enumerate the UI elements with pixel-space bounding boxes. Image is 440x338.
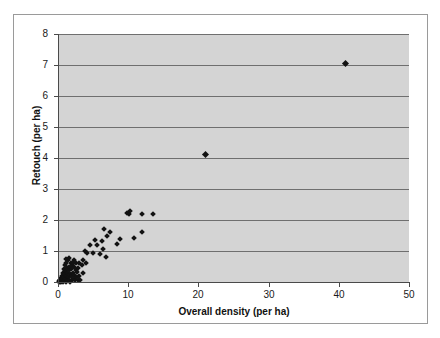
chart-figure: 012345678 01020304050 Overall density (p…: [13, 14, 428, 324]
y-tick-mark-8: [54, 34, 58, 35]
y-tick-mark-4: [54, 158, 58, 159]
y-tick-mark-6: [54, 96, 58, 97]
y-tick-label-1: 1: [24, 246, 48, 256]
y-tick-label-8: 8: [24, 29, 48, 39]
y-axis-title: Retouch (per ha): [31, 66, 42, 226]
y-tick-label-0: 0: [24, 277, 48, 287]
x-tick-label-40: 40: [324, 290, 354, 300]
gridline-y-8: [58, 34, 409, 35]
y-tick-mark-3: [54, 189, 58, 190]
gridline-y-7: [58, 65, 409, 66]
x-tick-mark-0: [58, 283, 59, 287]
x-tick-mark-10: [128, 283, 129, 287]
x-tick-mark-40: [339, 283, 340, 287]
gridline-y-6: [58, 96, 409, 97]
gridline-y-5: [58, 127, 409, 128]
plot-area: [58, 34, 409, 282]
gridline-y-2: [58, 220, 409, 221]
x-axis-line: [58, 282, 410, 283]
y-tick-mark-5: [54, 127, 58, 128]
y-axis-line: [58, 34, 59, 283]
gridline-y-3: [58, 189, 409, 190]
x-tick-mark-20: [198, 283, 199, 287]
y-tick-mark-7: [54, 65, 58, 66]
gridline-y-1: [58, 251, 409, 252]
x-tick-label-20: 20: [183, 290, 213, 300]
x-tick-label-50: 50: [394, 290, 424, 300]
x-tick-mark-30: [269, 283, 270, 287]
gridline-y-4: [58, 158, 409, 159]
x-tick-label-0: 0: [43, 290, 73, 300]
x-tick-label-30: 30: [254, 290, 284, 300]
y-tick-mark-1: [54, 251, 58, 252]
y-tick-mark-2: [54, 220, 58, 221]
x-tick-label-10: 10: [113, 290, 143, 300]
x-tick-mark-50: [409, 283, 410, 287]
gridlines: [58, 34, 409, 282]
x-axis-title: Overall density (per ha): [58, 306, 410, 317]
